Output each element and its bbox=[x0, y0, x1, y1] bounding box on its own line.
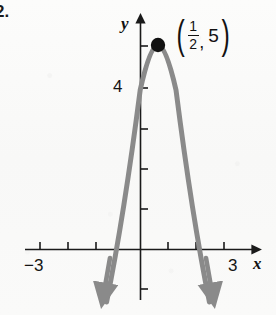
fraction-numerator: 1 bbox=[187, 19, 199, 33]
vertex-point-marker bbox=[151, 38, 165, 52]
x-tick-label-3: 3 bbox=[228, 256, 237, 276]
open-paren: ( bbox=[177, 19, 185, 52]
y-axis-label: y bbox=[121, 14, 129, 34]
x-tick-label--3: −3 bbox=[24, 256, 43, 276]
y-tick-label-4: 4 bbox=[113, 77, 122, 97]
vertex-coordinate-annotation: ( 1 2 , 5 ) bbox=[174, 19, 232, 52]
parabola-figure: 2. bbox=[0, 0, 276, 315]
fraction-one-half: 1 2 bbox=[187, 19, 199, 51]
annotation-comma: , bbox=[199, 33, 204, 52]
close-paren: ) bbox=[221, 19, 229, 52]
fraction-denominator: 2 bbox=[187, 37, 199, 51]
annotation-y-value: 5 bbox=[208, 26, 219, 45]
x-axis-label: x bbox=[253, 254, 262, 274]
x-axis bbox=[25, 242, 253, 250]
